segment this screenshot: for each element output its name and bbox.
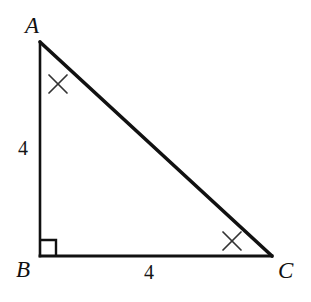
triangle-figure (0, 0, 311, 302)
vertex-label-a: A (25, 14, 39, 37)
vertex-label-c: C (278, 259, 294, 282)
vertex-label-b: B (16, 258, 30, 281)
angle-congruence-mark-c (223, 232, 241, 250)
side-length-label-ab: 4 (18, 138, 28, 158)
triangle-diagram: A B C 4 4 (0, 0, 311, 302)
angle-congruence-mark-a (49, 75, 67, 93)
triangle-side-ac-hypotenuse (40, 42, 272, 256)
right-angle-marker-b (40, 240, 56, 256)
side-length-label-bc: 4 (144, 262, 154, 282)
